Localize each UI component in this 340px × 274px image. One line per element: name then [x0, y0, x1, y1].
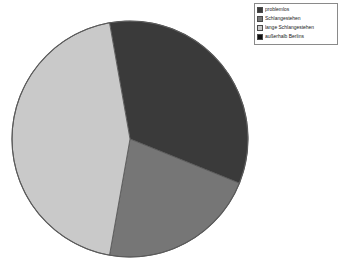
chart-legend: problemlos Schlangestehen lange Schlange… — [254, 3, 338, 45]
pie-slice-group — [12, 21, 248, 257]
legend-item-ausserhalb-berlins[interactable]: außerhalb Berlins — [257, 33, 335, 41]
legend-item-label: außerhalb Berlins — [265, 34, 304, 40]
legend-item-label: problemlos — [265, 7, 289, 13]
pie-slice[interactable] — [12, 23, 130, 255]
legend-item-lange-schlangestehen[interactable]: lange Schlangestehen — [257, 24, 335, 32]
legend-swatch-icon — [257, 25, 263, 31]
legend-item-schlangestehen[interactable]: Schlangestehen — [257, 15, 335, 23]
legend-swatch-icon — [257, 34, 263, 40]
legend-swatch-icon — [257, 16, 263, 22]
legend-item-label: Schlangestehen — [265, 16, 301, 22]
pie-chart-figure: problemlos Schlangestehen lange Schlange… — [0, 0, 340, 274]
pie-plot-area — [0, 0, 252, 274]
legend-item-problemlos[interactable]: problemlos — [257, 6, 335, 14]
legend-item-label: lange Schlangestehen — [265, 25, 314, 31]
legend-swatch-icon — [257, 7, 263, 13]
pie-svg — [0, 0, 252, 274]
